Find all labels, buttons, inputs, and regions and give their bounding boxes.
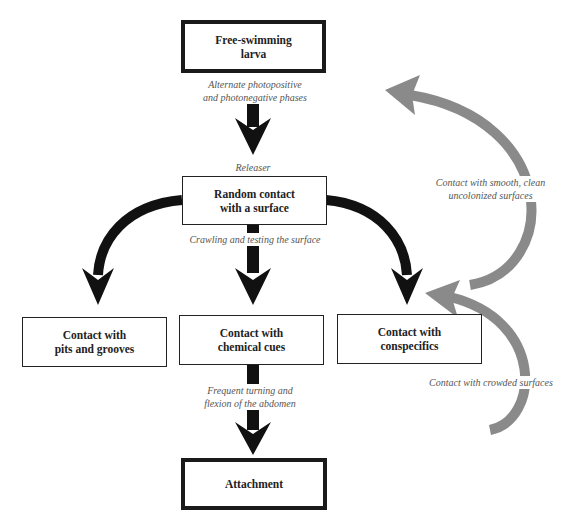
label-frequent-turning: Frequent turning andflexion of the abdom… — [200, 384, 300, 410]
label-smooth-surfaces: Contact with smooth, cleanuncolonized su… — [428, 176, 553, 202]
node-random-contact: Random contactwith a surface — [182, 176, 327, 225]
label-alternate-phases: Alternate photopositiveand photonegative… — [190, 78, 320, 104]
label-releaser: Releaser — [225, 161, 281, 174]
label-crawling: Crawling and testing the surface — [175, 233, 335, 246]
node-pits-grooves: Contact withpits and grooves — [22, 317, 167, 367]
node-conspecifics: Contact withconspecifics — [337, 314, 482, 364]
node-attachment: Attachment — [181, 458, 327, 510]
label-crowded-surfaces: Contact with crowded surfaces — [421, 376, 561, 389]
node-free-swimming-larva: Free-swimminglarva — [181, 20, 326, 73]
node-chemical-cues: Contact withchemical cues — [179, 315, 324, 365]
